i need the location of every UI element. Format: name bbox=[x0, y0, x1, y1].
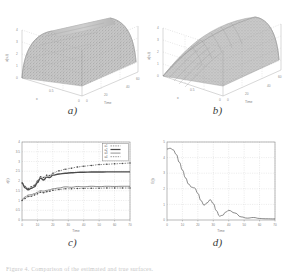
svg-text:0: 0 bbox=[219, 98, 221, 102]
svg-text:3: 3 bbox=[18, 160, 20, 164]
svg-text:x: x bbox=[36, 97, 38, 101]
svg-text:x: x bbox=[177, 96, 179, 100]
svg-text:0: 0 bbox=[86, 99, 88, 103]
svg-text:1: 1 bbox=[16, 64, 18, 68]
svg-text:60: 60 bbox=[258, 223, 262, 227]
plot-d-canvas: 010203040506070012345 E(t) Time bbox=[145, 132, 290, 240]
svg-text:60: 60 bbox=[278, 75, 282, 79]
svg-text:1: 1 bbox=[18, 199, 20, 203]
svg-text:4: 4 bbox=[16, 28, 18, 32]
svg-text:70: 70 bbox=[273, 223, 277, 227]
svg-text:70: 70 bbox=[128, 223, 132, 227]
svg-text:4: 4 bbox=[163, 156, 165, 160]
panel-b-surface-plot: 0 1 2 3 4 0.5 0 0 20 40 60 u(x,t) x Time… bbox=[145, 0, 290, 132]
svg-text:1: 1 bbox=[157, 62, 159, 66]
svg-text:3: 3 bbox=[163, 171, 165, 175]
svg-text:50: 50 bbox=[97, 223, 101, 227]
svg-text:0: 0 bbox=[18, 218, 20, 222]
svg-text:0: 0 bbox=[78, 99, 80, 103]
figure-caption: Figure 4. Comparison of the estimated an… bbox=[6, 266, 256, 272]
svg-text:3: 3 bbox=[16, 40, 18, 44]
svg-text:1.5: 1.5 bbox=[16, 189, 21, 193]
svg-text:10: 10 bbox=[181, 223, 185, 227]
panel-a-surface-plot: 0 1 2 3 4 0.5 0 0 20 40 60 u(x,t) x Time… bbox=[0, 0, 145, 132]
svg-text:40: 40 bbox=[227, 223, 231, 227]
svg-text:u(x,t): u(x,t) bbox=[5, 54, 9, 62]
svg-text:2: 2 bbox=[16, 52, 18, 56]
svg-text:4: 4 bbox=[157, 26, 159, 30]
svg-text:2.5: 2.5 bbox=[16, 169, 21, 173]
figure-container: 0 1 2 3 4 0.5 0 0 20 40 60 u(x,t) x Time… bbox=[0, 0, 290, 278]
svg-text:20: 20 bbox=[51, 223, 55, 227]
svg-text:Time: Time bbox=[72, 229, 80, 233]
panel-d-line-plot: 010203040506070012345 E(t) Time d) bbox=[145, 132, 290, 264]
svg-text:Time: Time bbox=[217, 229, 225, 233]
svg-text:0.5: 0.5 bbox=[190, 88, 195, 92]
svg-text:10: 10 bbox=[36, 223, 40, 227]
panel-c-line-plot: 01020304050607000.511.522.533.54 a1a2a3a… bbox=[0, 132, 145, 264]
svg-text:20: 20 bbox=[196, 223, 200, 227]
svg-text:40: 40 bbox=[126, 85, 130, 89]
svg-text:4: 4 bbox=[18, 140, 20, 144]
svg-text:20: 20 bbox=[245, 92, 249, 96]
svg-text:2: 2 bbox=[163, 187, 165, 191]
svg-text:E(t): E(t) bbox=[151, 178, 155, 183]
svg-text:60: 60 bbox=[136, 77, 140, 81]
svg-text:2: 2 bbox=[157, 50, 159, 54]
panel-c-label: c) bbox=[0, 236, 145, 248]
svg-text:3.5: 3.5 bbox=[16, 150, 21, 154]
svg-text:0: 0 bbox=[227, 98, 229, 102]
svg-text:2: 2 bbox=[18, 179, 20, 183]
plot-a-canvas: 0 1 2 3 4 0.5 0 0 20 40 60 u(x,t) x Time bbox=[0, 0, 145, 108]
plot-b-canvas: 0 1 2 3 4 0.5 0 0 20 40 60 u(x,t) x Time bbox=[145, 0, 290, 108]
svg-text:40: 40 bbox=[82, 223, 86, 227]
svg-text:40: 40 bbox=[267, 84, 271, 88]
svg-text:5: 5 bbox=[163, 140, 165, 144]
svg-text:0.5: 0.5 bbox=[49, 89, 54, 93]
svg-text:0.5: 0.5 bbox=[16, 208, 21, 212]
svg-text:1: 1 bbox=[163, 203, 165, 207]
svg-text:u(x,t): u(x,t) bbox=[147, 52, 151, 60]
panel-d-label: d) bbox=[145, 236, 290, 248]
svg-text:0: 0 bbox=[166, 223, 168, 227]
panel-a-label: a) bbox=[0, 104, 145, 116]
svg-text:0: 0 bbox=[16, 76, 18, 80]
panel-b-label: b) bbox=[145, 104, 290, 116]
svg-text:3: 3 bbox=[157, 38, 159, 42]
svg-text:0: 0 bbox=[157, 74, 159, 78]
svg-text:20: 20 bbox=[104, 93, 108, 97]
svg-text:a(t): a(t) bbox=[6, 178, 10, 183]
svg-text:50: 50 bbox=[242, 223, 246, 227]
svg-text:60: 60 bbox=[113, 223, 117, 227]
svg-text:30: 30 bbox=[67, 223, 71, 227]
svg-text:0: 0 bbox=[163, 218, 165, 222]
svg-text:30: 30 bbox=[212, 223, 216, 227]
plot-c-canvas: 01020304050607000.511.522.533.54 a1a2a3a… bbox=[0, 132, 145, 240]
svg-text:0: 0 bbox=[21, 223, 23, 227]
